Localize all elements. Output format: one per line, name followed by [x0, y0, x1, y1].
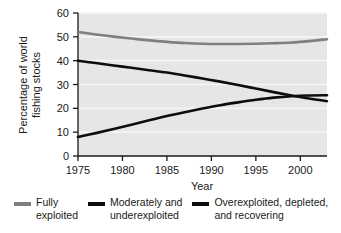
legend-swatch-icon	[14, 202, 31, 206]
x-tick-label: 1995	[244, 164, 268, 176]
x-tick-label: 1985	[155, 164, 179, 176]
y-axis-ticks: 0102030405060	[57, 7, 78, 162]
legend-swatch-icon	[192, 202, 209, 206]
y-tick-label: 10	[57, 126, 69, 138]
figure: 0102030405060 197519801985199019952000 Y…	[0, 0, 341, 233]
chart-legend: Fully exploited Moderately and underexpl…	[0, 196, 341, 233]
x-axis-ticks: 197519801985199019952000	[66, 156, 313, 176]
chart-plot-area: 0102030405060 197519801985199019952000 Y…	[0, 0, 341, 196]
y-tick-label: 0	[63, 150, 69, 162]
line-chart: 0102030405060 197519801985199019952000 Y…	[0, 0, 341, 196]
y-tick-label: 20	[57, 102, 69, 114]
y-axis-title-line2: fishing stocks	[30, 51, 42, 118]
legend-item-fully-exploited: Fully exploited	[14, 196, 78, 221]
x-tick-label: 2000	[288, 164, 312, 176]
y-axis-title-line1: Percentage of world	[17, 36, 29, 134]
y-axis-title: Percentage of world fishing stocks	[17, 36, 42, 134]
x-tick-label: 1975	[66, 164, 90, 176]
y-tick-label: 60	[57, 7, 69, 19]
legend-label-fully-exploited: Fully exploited	[36, 196, 78, 221]
legend-item-moderately-underexploited: Moderately and underexploited	[88, 196, 182, 221]
y-tick-label: 50	[57, 31, 69, 43]
legend-label-moderately-underexploited: Moderately and underexploited	[110, 196, 182, 221]
y-tick-label: 40	[57, 55, 69, 67]
x-tick-label: 1990	[199, 164, 223, 176]
y-tick-label: 30	[57, 79, 69, 91]
x-tick-label: 1980	[110, 164, 134, 176]
x-axis-title: Year	[191, 180, 214, 192]
legend-swatch-icon	[88, 202, 105, 206]
legend-item-overexploited-depleted: Overexploited, depleted, and recovering	[192, 196, 328, 221]
legend-label-overexploited-depleted: Overexploited, depleted, and recovering	[214, 196, 328, 221]
